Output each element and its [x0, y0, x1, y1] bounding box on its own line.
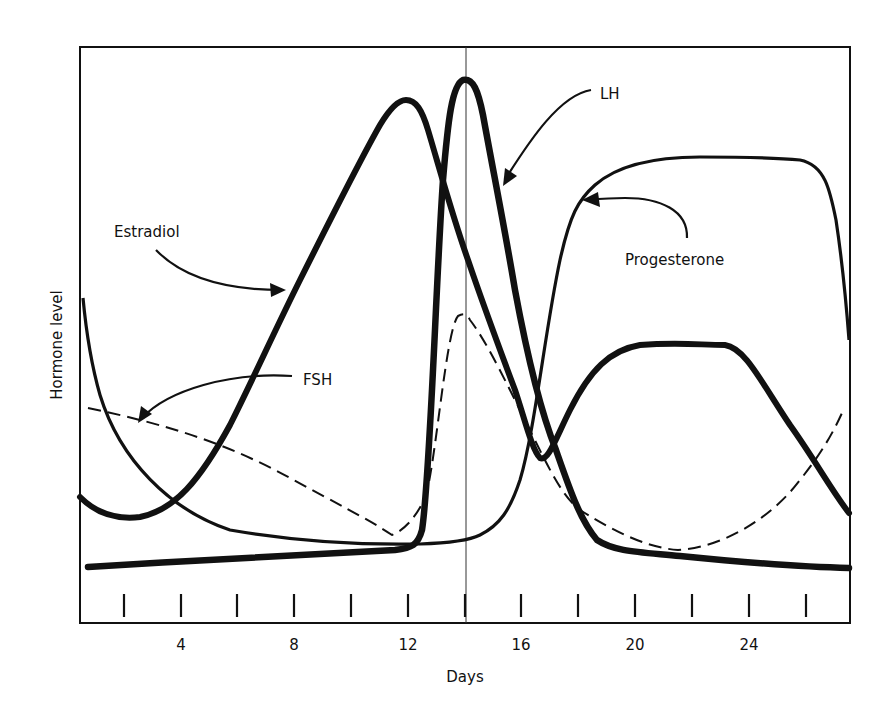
- y-axis-title: Hormone level: [48, 290, 66, 399]
- lh-label: LH: [600, 85, 620, 103]
- progesterone-arrow: [585, 198, 687, 238]
- fsh-label: FSH: [303, 371, 332, 389]
- fsh-arrow: [142, 375, 292, 418]
- x-tick-label: 12: [398, 636, 417, 654]
- fsh-curve: [88, 314, 842, 550]
- progesterone-label: Progesterone: [625, 251, 724, 269]
- estradiol-label: Estradiol: [114, 223, 180, 241]
- hormone-chart: 4 8 12 16 20 24 Days Hormone level Estra…: [0, 0, 895, 725]
- annotation-arrows: [142, 90, 687, 418]
- x-tick-marks: [124, 594, 806, 617]
- fsh-arrowhead: [138, 406, 152, 423]
- x-tick-label: 8: [289, 636, 299, 654]
- estradiol-arrow: [156, 250, 282, 290]
- x-axis-title: Days: [446, 668, 484, 686]
- estradiol-curve: [80, 100, 849, 518]
- x-tick-label: 4: [176, 636, 186, 654]
- plot-frame: [80, 47, 850, 623]
- x-tick-label: 20: [625, 636, 644, 654]
- x-tick-label: 24: [739, 636, 758, 654]
- estradiol-arrowhead: [270, 283, 286, 297]
- x-tick-label: 16: [511, 636, 530, 654]
- lh-arrow: [506, 90, 591, 178]
- lh-curve: [88, 80, 849, 568]
